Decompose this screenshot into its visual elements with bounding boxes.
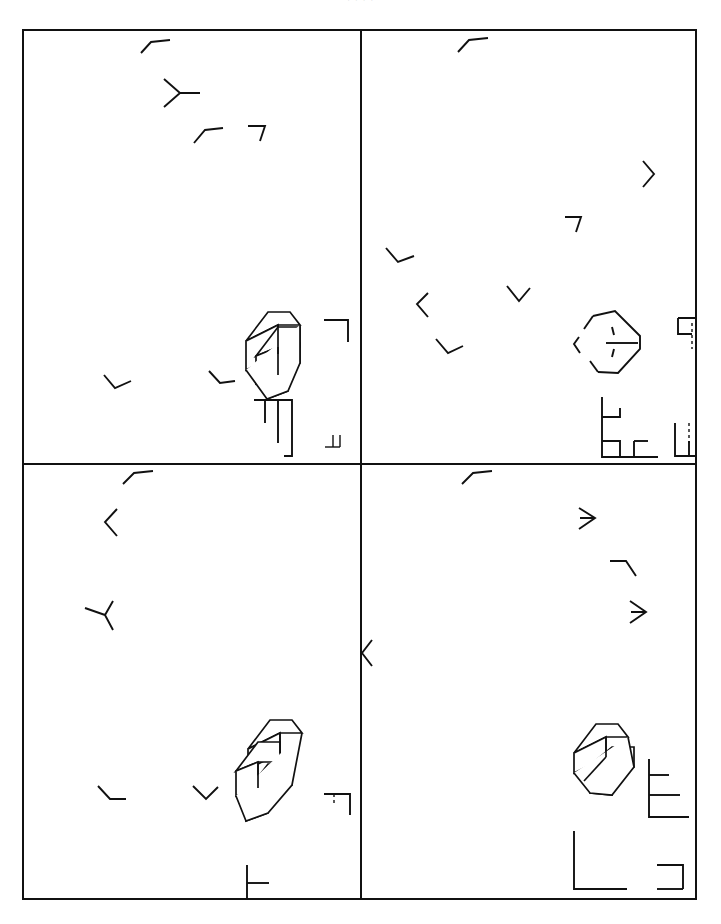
- fragment-vee-mark: [436, 339, 463, 353]
- fragment-corner-mark: [193, 786, 218, 799]
- fragment-caret-mark: [123, 471, 153, 484]
- fragment-y-junction-mark: [85, 601, 113, 630]
- bracket-top-right: [324, 320, 348, 342]
- panel-top-left-drawing: [24, 31, 360, 463]
- fragment-caret-mark: [458, 38, 488, 52]
- fragment-vee-mark: [507, 286, 530, 301]
- fragment-caret-mark: [141, 40, 170, 53]
- page-header-text: · · · ·: [347, 0, 374, 5]
- fragment-chevron-mark: [362, 640, 372, 666]
- fragment-arrow-right: [579, 508, 595, 529]
- fragment-y-junction-mark: [164, 79, 200, 107]
- panel-top-right-drawing: [362, 31, 695, 463]
- bracket-top-right-dash: [678, 318, 695, 349]
- sheet-frame: [22, 29, 697, 900]
- page-header-strip: · · · ·: [0, 0, 721, 14]
- impossible-figure-hexagon-outline: [574, 311, 640, 373]
- fragment-caret-mark: [194, 128, 223, 143]
- bracket-step-left: [602, 397, 658, 457]
- fragment-chevron-mark: [105, 509, 117, 536]
- panel-top-right[interactable]: [362, 31, 695, 463]
- bracket-step-right: [247, 865, 305, 898]
- fragment-corner-mark: [610, 561, 636, 576]
- fragment-vee-mark: [386, 248, 414, 262]
- bracket-comb-right: [649, 759, 689, 817]
- worksheet-page: · · · ·: [0, 0, 721, 924]
- fragment-corner-mark: [565, 217, 581, 232]
- panel-bottom-right-drawing: [362, 465, 695, 898]
- fragment-corner-mark: [248, 126, 265, 141]
- panel-bottom-left[interactable]: [24, 465, 360, 898]
- copyright-host: Copyright Goodheart-Willcox Co., Inc.: [699, 755, 713, 915]
- impossible-figure-three-bar-block: [246, 312, 300, 399]
- impossible-figure-stepped-block: [236, 720, 302, 821]
- fragment-chevron-mark: [643, 161, 654, 187]
- bracket-bottom-right-corner: [657, 865, 683, 889]
- panel-bottom-right[interactable]: [362, 465, 695, 898]
- fragment-corner-mark: [209, 371, 235, 383]
- fragment-vee-mark: [104, 375, 131, 388]
- bracket-bottom-right-dash: [325, 435, 340, 447]
- fragment-arrow-right: [630, 601, 646, 623]
- bracket-top-right-dash: [324, 794, 350, 815]
- panel-top-left[interactable]: [24, 31, 360, 463]
- fragment-caret-mark: [462, 471, 492, 484]
- panel-bottom-left-drawing: [24, 465, 360, 898]
- bracket-bottom-right-corner: [675, 423, 695, 456]
- impossible-figure-open-block: [574, 724, 634, 795]
- fragment-vee-mark: [98, 786, 126, 799]
- bracket-comb-down: [254, 400, 292, 456]
- fragment-chevron-mark: [417, 293, 428, 317]
- bracket-bottom-left-large: [574, 831, 627, 889]
